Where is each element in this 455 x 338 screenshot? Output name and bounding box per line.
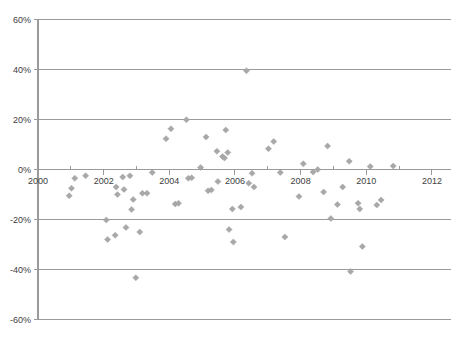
y-tick-label-0: 0%: [18, 165, 31, 175]
data-point: [103, 217, 109, 223]
data-point: [112, 232, 118, 238]
data-point: [223, 127, 229, 133]
x-tick-label-2006: 2006: [225, 176, 245, 186]
data-point: [114, 191, 120, 197]
data-point: [265, 146, 271, 152]
data-point: [346, 158, 352, 164]
x-tick-label-2002: 2002: [94, 176, 114, 186]
data-point: [249, 170, 255, 176]
data-point: [359, 243, 365, 249]
x-tick-label-2000: 2000: [28, 176, 48, 186]
plot-area: 60%40%20%0%-20%-40%-60%20002002200420062…: [0, 0, 455, 338]
data-point: [251, 184, 257, 190]
y-tick-label-60: 60%: [13, 15, 31, 25]
series-observations: [66, 68, 396, 281]
y-tick-label--60: -60%: [10, 315, 31, 325]
data-point: [340, 184, 346, 190]
data-point: [378, 197, 384, 203]
data-point: [225, 149, 231, 155]
data-point: [226, 226, 232, 232]
data-point: [168, 126, 174, 132]
data-point: [214, 148, 220, 154]
data-point: [357, 206, 363, 212]
data-point: [230, 239, 236, 245]
data-point: [128, 206, 134, 212]
data-point: [238, 204, 244, 210]
data-point: [328, 215, 334, 221]
data-point: [355, 200, 361, 206]
y-tick-label-40: 40%: [13, 65, 31, 75]
data-point: [324, 143, 330, 149]
data-point: [113, 184, 119, 190]
x-tick-label-2010: 2010: [356, 176, 376, 186]
data-point: [271, 138, 277, 144]
data-point: [163, 136, 169, 142]
data-point: [246, 180, 252, 186]
x-tick-label-2008: 2008: [291, 176, 311, 186]
data-point: [121, 186, 127, 192]
data-point: [390, 163, 396, 169]
chart-canvas: 60%40%20%0%-20%-40%-60%20002002200420062…: [0, 0, 455, 338]
data-point: [215, 178, 221, 184]
data-point: [144, 190, 150, 196]
x-tick-label-2004: 2004: [159, 176, 179, 186]
data-point: [123, 224, 129, 230]
data-point: [183, 117, 189, 123]
data-point: [300, 161, 306, 167]
data-point: [130, 196, 136, 202]
data-point: [321, 189, 327, 195]
y-tick-label--40: -40%: [10, 265, 31, 275]
data-point: [203, 134, 209, 140]
data-point: [68, 185, 74, 191]
data-point: [66, 193, 72, 199]
y-tick-label-20: 20%: [13, 115, 31, 125]
y-tick-label--20: -20%: [10, 215, 31, 225]
data-point: [243, 68, 249, 74]
data-point: [72, 175, 78, 181]
data-point: [149, 169, 155, 175]
data-point: [277, 169, 283, 175]
data-point: [282, 234, 288, 240]
data-point: [229, 206, 235, 212]
scatter-chart: 60%40%20%0%-20%-40%-60%20002002200420062…: [0, 0, 455, 338]
data-point: [296, 193, 302, 199]
data-point: [334, 201, 340, 207]
data-point: [374, 202, 380, 208]
data-point: [104, 236, 110, 242]
data-point: [83, 173, 89, 179]
data-point: [127, 173, 133, 179]
data-point: [367, 163, 373, 169]
data-point: [120, 174, 126, 180]
data-point: [133, 275, 139, 281]
data-point: [137, 229, 143, 235]
x-tick-label-2012: 2012: [422, 176, 442, 186]
